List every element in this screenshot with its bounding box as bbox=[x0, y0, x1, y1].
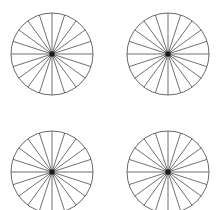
wheel-top-right bbox=[111, 0, 221, 105]
wheel-hub bbox=[50, 170, 55, 175]
wheel-bottom-right bbox=[111, 118, 221, 210]
wheel-hub bbox=[50, 52, 55, 57]
wheel-bottom-left-graphic bbox=[0, 118, 110, 210]
wheel-top-left-graphic bbox=[0, 0, 110, 105]
wheel-bottom-left bbox=[0, 118, 110, 210]
wheel-top-right-graphic bbox=[111, 0, 221, 105]
wheel-grid-canvas bbox=[0, 0, 221, 210]
wheel-bottom-right-graphic bbox=[111, 118, 221, 210]
wheel-top-left bbox=[0, 0, 110, 105]
wheel-hub bbox=[166, 170, 171, 175]
wheel-hub bbox=[166, 52, 171, 57]
